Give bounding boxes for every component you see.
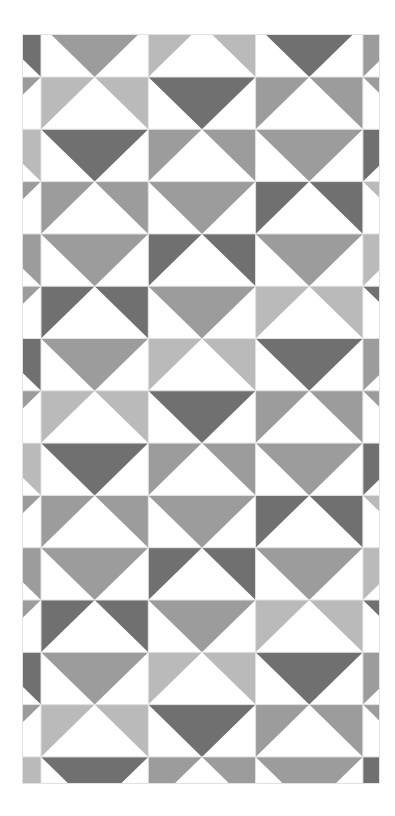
triangle-pattern (22, 34, 380, 784)
right-corner-triangle (22, 757, 41, 784)
left-corner-triangle (363, 757, 380, 784)
triangle-pattern-svg (22, 34, 380, 784)
